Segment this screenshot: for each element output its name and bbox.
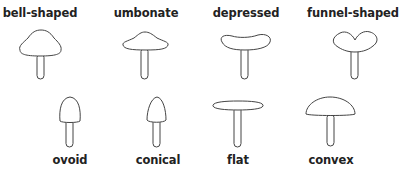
depressed-mushroom	[221, 34, 270, 79]
label-depressed: depressed	[213, 6, 280, 20]
funnel-shaped-mushroom	[333, 31, 377, 79]
mushroom-shapes-diagram	[0, 0, 405, 174]
flat-mushroom	[213, 101, 263, 147]
ovoid-mushroom	[60, 97, 80, 147]
bell-shaped-mushroom	[20, 30, 62, 79]
convex-mushroom	[306, 97, 355, 146]
label-umbonate: umbonate	[114, 6, 179, 20]
label-ovoid: ovoid	[53, 153, 88, 167]
conical-mushroom	[147, 97, 166, 147]
label-flat: flat	[227, 153, 249, 167]
label-bell-shaped: bell-shaped	[3, 6, 78, 20]
label-funnel-shaped: funnel-shaped	[307, 6, 399, 20]
label-convex: convex	[308, 153, 353, 167]
label-conical: conical	[136, 153, 181, 167]
umbonate-mushroom	[123, 32, 168, 79]
